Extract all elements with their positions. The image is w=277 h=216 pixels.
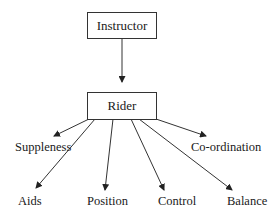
coordination-label: Co-ordination bbox=[191, 140, 261, 155]
position-label: Position bbox=[87, 194, 128, 209]
instructor-label: Instructor bbox=[97, 18, 148, 34]
rider-label: Rider bbox=[108, 98, 137, 114]
rider-node: Rider bbox=[87, 92, 157, 120]
aids-label: Aids bbox=[18, 194, 42, 209]
balance-label: Balance bbox=[227, 194, 267, 209]
instructor-node: Instructor bbox=[87, 12, 157, 39]
control-label: Control bbox=[158, 194, 196, 209]
suppleness-label: Suppleness bbox=[15, 140, 71, 155]
